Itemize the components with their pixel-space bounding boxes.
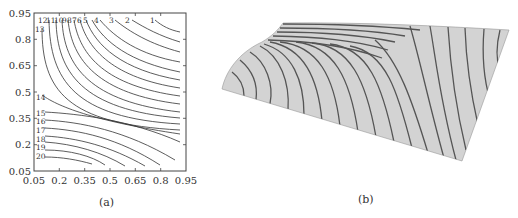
contour-lines (42, 20, 180, 166)
panel-a-contour-plot: 0.05 0.2 0.35 0.5 0.65 0.8 0.95 0.05 0.2… (0, 0, 200, 218)
surface-shape (222, 23, 509, 161)
svg-text:0.5: 0.5 (102, 175, 118, 186)
svg-text:6: 6 (77, 16, 82, 25)
svg-text:19: 19 (36, 143, 46, 152)
svg-text:0.95: 0.95 (9, 8, 31, 19)
svg-text:13: 13 (35, 25, 45, 34)
caption-b: (b) (358, 193, 374, 206)
svg-text:16: 16 (36, 117, 46, 126)
svg-text:14: 14 (36, 93, 46, 102)
svg-text:1: 1 (150, 16, 155, 25)
svg-text:0.2: 0.2 (51, 175, 67, 186)
svg-text:0.65: 0.65 (9, 60, 31, 71)
svg-text:0.05: 0.05 (23, 175, 45, 186)
svg-text:4: 4 (94, 16, 99, 25)
contour-labels: 12 11 10 9 8 7 6 5 4 3 2 1 13 14 15 16 1… (35, 16, 155, 161)
svg-text:17: 17 (36, 126, 46, 135)
contour-plot-svg: 0.05 0.2 0.35 0.5 0.65 0.8 0.95 0.05 0.2… (0, 0, 200, 190)
svg-text:3: 3 (109, 16, 114, 25)
svg-text:20: 20 (36, 152, 46, 161)
svg-text:2: 2 (125, 16, 130, 25)
svg-text:0.65: 0.65 (124, 175, 146, 186)
svg-text:5: 5 (83, 16, 88, 25)
svg-text:0.5: 0.5 (15, 87, 31, 98)
svg-text:0.95: 0.95 (175, 175, 197, 186)
svg-text:0.35: 0.35 (74, 175, 96, 186)
axis-ticks (34, 13, 186, 171)
caption-a: (a) (99, 196, 114, 209)
axes-box (34, 13, 186, 171)
x-tick-labels: 0.05 0.2 0.35 0.5 0.65 0.8 0.95 (23, 175, 197, 186)
svg-text:0.8: 0.8 (153, 175, 169, 186)
svg-text:0.35: 0.35 (9, 113, 31, 124)
svg-text:0.8: 0.8 (15, 34, 31, 45)
svg-text:0.2: 0.2 (15, 139, 31, 150)
surface-contour-lines (232, 24, 500, 160)
y-tick-labels: 0.05 0.2 0.35 0.5 0.65 0.8 0.95 (9, 8, 31, 177)
